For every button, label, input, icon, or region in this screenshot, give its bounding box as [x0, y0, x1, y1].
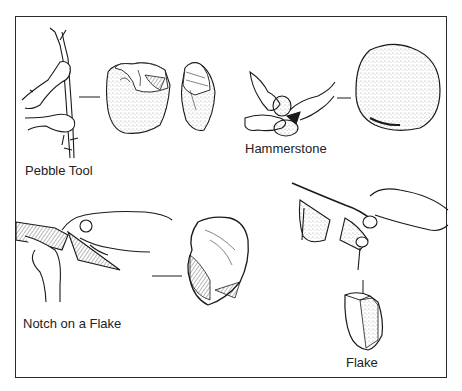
label-flake: Flake: [346, 355, 378, 370]
notch-on-flake-hands-drawing: [16, 211, 172, 302]
hammerstone-hands-drawing: [245, 72, 335, 136]
label-pebble-tool: Pebble Tool: [25, 163, 93, 178]
pebble-tool-stick-drawing: [22, 28, 78, 158]
hammerstone-drawing: [356, 44, 440, 130]
pebble-tool-front-drawing: [107, 63, 171, 133]
flake-drawing: [345, 293, 383, 350]
label-notch-on-a-flake: Notch on a Flake: [23, 316, 121, 331]
stone-tool-illustration: [0, 0, 462, 391]
pebble-tool-side-drawing: [182, 63, 216, 131]
notched-flake-drawing: [188, 217, 248, 305]
flake-striking-drawing: [292, 183, 448, 270]
label-hammerstone: Hammerstone: [245, 141, 327, 156]
